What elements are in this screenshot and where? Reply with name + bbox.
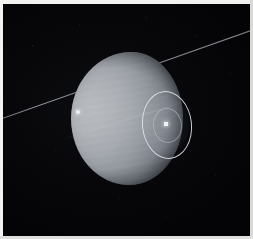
border-right-edge <box>250 0 253 239</box>
image-frame: Uranus <box>0 0 253 239</box>
space-background: Uranus <box>3 4 250 236</box>
border-left-edge <box>0 0 3 239</box>
border-bottom-edge <box>0 236 253 239</box>
border-top-edge <box>0 0 253 4</box>
annotation-center-marker <box>164 122 168 126</box>
moon-point-source <box>76 110 80 114</box>
